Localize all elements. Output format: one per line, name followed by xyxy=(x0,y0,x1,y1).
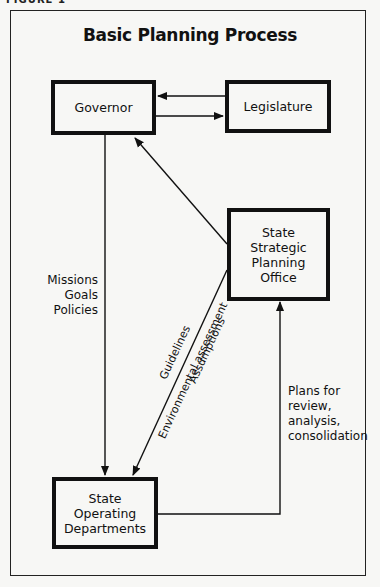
office-label-line: Strategic xyxy=(250,240,307,255)
arrow-office-to-governor xyxy=(135,138,227,244)
node-governor: Governor xyxy=(51,80,156,135)
departments-label-line: Departments xyxy=(64,521,146,536)
edge-label-missions-goals-policies: Missions Goals Policies xyxy=(40,273,98,318)
node-strategic-planning-office: State Strategic Planning Office xyxy=(227,208,330,301)
departments-label-line: State xyxy=(64,491,146,506)
office-label-line: State xyxy=(250,225,307,240)
edge-label-line: review, xyxy=(288,399,368,414)
arrow-office-to-departments xyxy=(133,270,227,475)
edge-label-line: Policies xyxy=(40,303,98,318)
departments-label-line: Operating xyxy=(64,506,146,521)
office-label-line: Office xyxy=(250,270,307,285)
node-operating-departments: State Operating Departments xyxy=(52,477,158,549)
node-legislature-label: Legislature xyxy=(244,99,313,114)
edge-label-plans-for-review: Plans for review, analysis, consolidatio… xyxy=(288,384,368,444)
edge-label-line: Goals xyxy=(40,288,98,303)
edge-label-line: analysis, xyxy=(288,414,368,429)
office-label-line: Planning xyxy=(250,255,307,270)
edge-label-line: Missions xyxy=(40,273,98,288)
edge-label-line: consolidation xyxy=(288,429,368,444)
node-governor-label: Governor xyxy=(74,100,132,115)
node-legislature: Legislature xyxy=(225,80,331,133)
edge-label-line: Plans for xyxy=(288,384,368,399)
